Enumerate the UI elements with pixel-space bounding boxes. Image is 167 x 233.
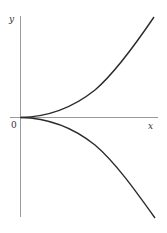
lower-branch-curve [21,118,156,219]
semicubical-parabola-figure: y x 0 [0,0,167,233]
origin-label: 0 [11,121,17,130]
y-axis-label: y [9,15,14,24]
plot-canvas [0,0,167,233]
upper-branch-curve [21,17,155,118]
x-axis-label: x [148,122,153,131]
